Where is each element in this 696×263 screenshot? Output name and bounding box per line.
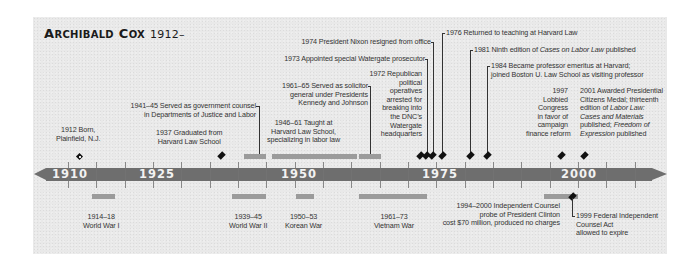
- book-title: Expression: [580, 129, 615, 138]
- title-years: 1912–: [150, 28, 185, 41]
- event-line: World War I: [83, 222, 119, 231]
- leader-line: [442, 33, 445, 34]
- period-bar-1950-53: [296, 194, 314, 199]
- event-line: headquarters: [368, 130, 422, 139]
- event-line: Vietnam War: [374, 222, 414, 231]
- event-1974-nixon-resigned: 1974 President Nixon resigned from offic…: [270, 38, 431, 47]
- event-1984-professor-emeritus: 1984 Became professor emeritus at Harvar…: [491, 62, 644, 79]
- period-bar-1914-18: [92, 194, 115, 199]
- event-line: 1976 Returned to teaching at Harvard Law: [446, 29, 577, 38]
- event-1914-18-wwi: 1914–18 World War I: [83, 213, 119, 230]
- leader-line: [433, 42, 434, 154]
- leader-line: [470, 50, 473, 51]
- event-1961-65-solicitor-general: 1961–65 Served as solicitor general unde…: [265, 82, 368, 108]
- event-line: in Departments of Justice and Labor: [126, 111, 256, 120]
- event-1997-lobbied-congress: 1997 Lobbied Congress in favor of campai…: [526, 87, 568, 139]
- leader-line: [487, 66, 488, 154]
- period-bar-1946-61: [272, 154, 357, 159]
- event-line: joined Boston U. Law School as visiting …: [491, 71, 644, 80]
- event-text: 1981 Ninth edition of: [474, 45, 540, 54]
- event-1973-appointed-prosecutor: 1973 Appointed special Watergate prosecu…: [270, 55, 425, 64]
- timeline-arrow-left: [34, 168, 46, 180]
- leader-line: [442, 33, 443, 154]
- event-2001-presidential-medal: 2001 Awarded Presidential Citizens Medal…: [580, 87, 663, 139]
- event-1946-61-taught: 1946–61 Taught at Harvard Law School, sp…: [267, 119, 340, 145]
- event-1937-graduated: 1937 Graduated from Harvard Law School: [156, 129, 222, 146]
- event-1939-45-wwii: 1939–45 World War II: [229, 213, 267, 230]
- period-bar-1939-45: [232, 194, 266, 199]
- event-line: specializing in labor law: [267, 136, 340, 145]
- title-last-rest: OX: [129, 29, 145, 40]
- birth-marker-icon: [77, 152, 83, 161]
- book-title: Cases on Labor Law: [540, 45, 604, 54]
- event-1972-watergate-breakin: 1972 Republican political operatives arr…: [368, 70, 422, 139]
- leader-line: [487, 66, 490, 67]
- event-line: Kennedy and Johnson: [265, 99, 368, 108]
- axis-label-1925: 1925: [139, 168, 175, 181]
- leader-line: [572, 198, 573, 216]
- period-bar-1961-65: [359, 154, 381, 159]
- title-first-cap: A: [44, 26, 54, 41]
- event-line: cost $70 million, produced no charges: [430, 219, 560, 228]
- event-line: Korean War: [285, 222, 322, 231]
- event-1912-born: 1912 Born, Plainfield, N.J.: [56, 126, 100, 143]
- axis-label-2000: 2000: [561, 168, 597, 181]
- leader-line: [470, 50, 471, 154]
- timeline-arrow-right: [652, 168, 667, 180]
- event-1981-ninth-edition: 1981 Ninth edition of Cases on Labor Law…: [474, 46, 636, 55]
- leader-line: [427, 59, 428, 154]
- event-line: 1973 Appointed special Watergate prosecu…: [270, 55, 425, 64]
- event-1994-2000-independent-counsel: 1994–2000 Independent Counsel probe of P…: [430, 202, 560, 228]
- period-bar-1961-73: [359, 194, 427, 199]
- event-line: Harvard Law School: [156, 138, 222, 147]
- event-line: Plainfield, N.J.: [56, 135, 100, 144]
- event-line: Expression published: [580, 130, 663, 139]
- event-line: 1974 President Nixon resigned from offic…: [270, 38, 431, 47]
- event-1976-returned-harvard: 1976 Returned to teaching at Harvard Law: [446, 29, 577, 38]
- event-text: published: [615, 129, 647, 138]
- event-text: published: [604, 45, 636, 54]
- axis-label-1975: 1975: [422, 168, 458, 181]
- event-1950-53-korean-war: 1950–53 Korean War: [285, 213, 322, 230]
- title-last-cap: C: [119, 26, 129, 41]
- event-1999-counsel-act-expired: 1999 Federal Independent Counsel Act all…: [576, 212, 658, 238]
- axis-label-1950: 1950: [281, 168, 317, 181]
- axis-label-1910: 1910: [52, 168, 88, 181]
- event-line: World War II: [229, 222, 267, 231]
- event-1961-73-vietnam-war: 1961–73 Vietnam War: [374, 213, 414, 230]
- title-first-rest: RCHIBALD: [54, 29, 114, 40]
- leader-line: [259, 106, 260, 156]
- event-line: allowed to expire: [576, 229, 658, 238]
- leader-line: [572, 216, 575, 217]
- event-1941-45-government-counsel: 1941–45 Served as government counsel in …: [126, 102, 256, 119]
- timeline-title: ARCHIBALD COX 1912–: [44, 26, 185, 41]
- event-line: finance reform: [526, 130, 568, 139]
- period-bar-1941-45: [244, 154, 266, 159]
